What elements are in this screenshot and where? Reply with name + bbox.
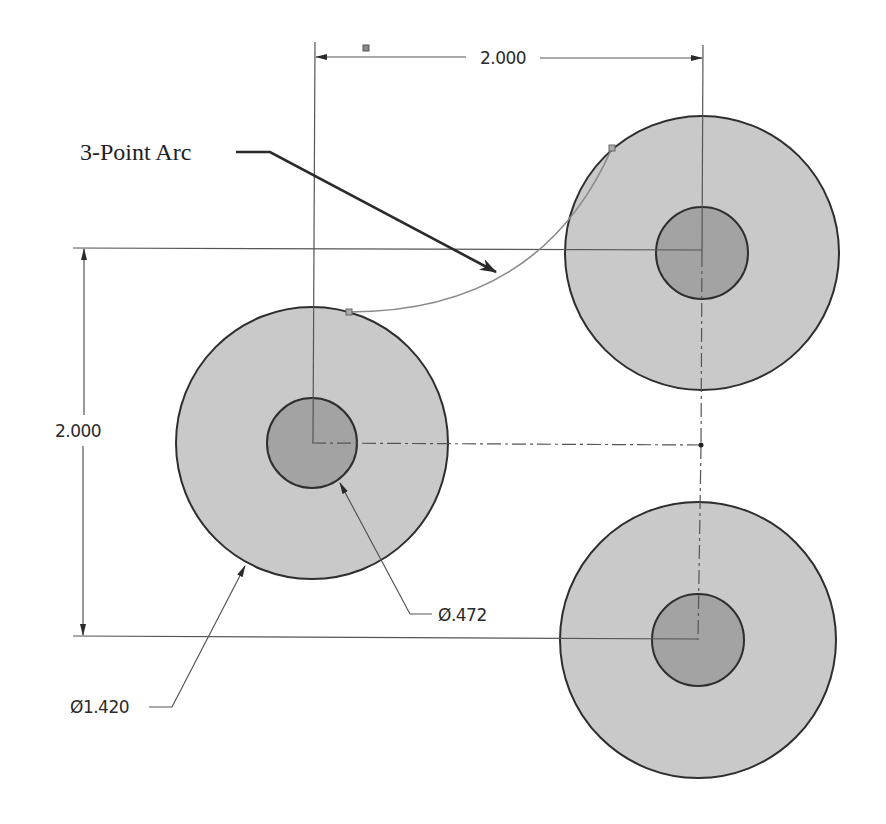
vertical-dimension-value[interactable]: 2.000 bbox=[55, 421, 101, 441]
arc-label: 3-Point Arc bbox=[80, 139, 191, 165]
arc-callout: 3-Point Arc bbox=[80, 139, 496, 272]
horizontal-dimension[interactable]: 2.000 bbox=[316, 48, 702, 68]
vertical-dimension[interactable]: 2.000 bbox=[55, 249, 101, 635]
arc-endpoint-start[interactable] bbox=[346, 309, 352, 315]
centerline-intersection-point[interactable] bbox=[699, 443, 704, 448]
inner-diameter-value[interactable]: Ø.472 bbox=[438, 605, 487, 625]
sketch-point-marker[interactable] bbox=[363, 45, 369, 51]
horizontal-dimension-value[interactable]: 2.000 bbox=[480, 48, 526, 68]
outer-diameter-callout[interactable]: Ø1.420 bbox=[70, 566, 245, 717]
sketch-drawing: 2.000 2.000 3-Point Arc Ø.472 Ø1.420 bbox=[0, 0, 886, 824]
arc-leader bbox=[236, 152, 496, 272]
arc-endpoint-end[interactable] bbox=[609, 145, 615, 151]
outer-diameter-value[interactable]: Ø1.420 bbox=[70, 697, 129, 717]
